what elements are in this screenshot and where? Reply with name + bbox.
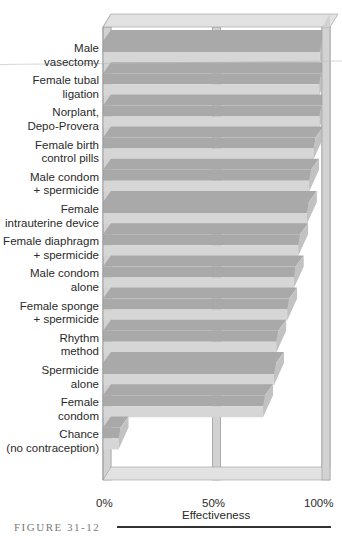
category-label-line: condom [0, 410, 99, 424]
category-label-line: control pills [0, 152, 99, 166]
bar [103, 191, 317, 224]
category-label: Male condom+ spermicide [0, 171, 99, 198]
frame-top [103, 14, 338, 27]
bar-front-face [103, 310, 287, 321]
category-label-line: + spermicide [0, 184, 99, 198]
category-label-line: ligation [0, 88, 99, 102]
category-label: Spermicidealone [0, 364, 99, 391]
frame-floor [103, 467, 330, 480]
bar [103, 352, 284, 385]
bar-front-face [103, 406, 263, 417]
category-label-line: Norplant, [0, 106, 99, 120]
bar-front-face [103, 374, 274, 385]
bar-top-face [103, 62, 329, 73]
bar [103, 288, 297, 321]
category-label-line: Male [0, 42, 99, 56]
category-label-line: alone [0, 281, 99, 295]
bar-top-face [103, 94, 329, 105]
bar-top-face-lower [103, 266, 296, 277]
bar-top-face-lower [103, 105, 321, 116]
bar [103, 159, 319, 192]
bar-top-face [103, 320, 286, 331]
category-label: Female sponge+ spermicide [0, 300, 99, 327]
category-label-line: Female [0, 396, 99, 410]
category-label-line: Female [0, 203, 99, 217]
bar [103, 384, 273, 417]
bar-top-face-lower [103, 73, 321, 84]
category-label-line: Female sponge [0, 300, 99, 314]
bar-front-face [103, 245, 298, 256]
bar [103, 62, 329, 95]
category-label-line: Chance [0, 428, 99, 442]
category-label-line: Rhythm [0, 332, 99, 346]
category-label-line: + spermicide [0, 313, 99, 327]
bar [103, 320, 286, 353]
category-label: Rhythmmethod [0, 332, 99, 359]
category-label-line: Spermicide [0, 364, 99, 378]
bar [103, 30, 330, 63]
category-label: Femalecondom [0, 396, 99, 423]
category-label-line: Male condom [0, 267, 99, 281]
category-label-line: vasectomy [0, 56, 99, 70]
bar-top-face [103, 384, 273, 395]
x-tick-50: 50% [202, 497, 225, 509]
category-label: Chance(no contraception) [0, 428, 99, 455]
bars-group [103, 30, 330, 449]
bar-front-face [103, 213, 307, 224]
bar-top-face-lower [103, 41, 322, 52]
bar-top-face-lower [103, 234, 300, 245]
figure-label: FIGURE 31-12 [14, 521, 100, 533]
figure-rule [117, 526, 331, 528]
bar-front-face [103, 181, 309, 192]
x-axis-title: Effectiveness [182, 509, 250, 521]
bar-top-face-lower [103, 138, 315, 149]
category-label-line: Female birth [0, 139, 99, 153]
category-label: Female diaphragm+ spermicide [0, 235, 99, 262]
bar-top-face [103, 30, 330, 41]
category-label-line: (no contraception) [0, 442, 99, 456]
category-label-line: alone [0, 378, 99, 392]
category-label-line: Male condom [0, 171, 99, 185]
bar-front-face [103, 149, 313, 160]
bar-top-face-lower [103, 331, 278, 342]
x-tick-100: 100% [304, 497, 333, 509]
bar-top-face-lower [103, 299, 289, 310]
category-label: Male condomalone [0, 267, 99, 294]
bar-front-face [103, 84, 319, 95]
bar [103, 94, 329, 127]
category-label: Female tuballigation [0, 74, 99, 101]
category-label-line: + spermicide [0, 249, 99, 263]
category-label: Female birthcontrol pills [0, 139, 99, 166]
category-label-line: intrauterine device [0, 217, 99, 231]
bar-front-face [103, 342, 276, 353]
category-label-line: Female tubal [0, 74, 99, 88]
category-label: Malevasectomy [0, 42, 99, 69]
category-label-line: Female diaphragm [0, 235, 99, 249]
bar-front-face [103, 116, 319, 127]
bar-top-face-lower [103, 202, 309, 213]
frame-right-wall [322, 27, 330, 480]
category-label-line: method [0, 345, 99, 359]
bar-top-face [103, 288, 297, 299]
bar-top-face [103, 352, 284, 363]
bar-top-face-lower [103, 427, 121, 438]
bar [103, 255, 304, 288]
bar [103, 223, 308, 256]
x-tick-0: 0% [96, 497, 113, 509]
bar-front-face [103, 438, 119, 449]
bar-top-face-lower [103, 170, 311, 181]
bar [103, 127, 323, 160]
bar-top-face [103, 255, 304, 266]
bar-top-face [103, 223, 308, 234]
bar-top-face [103, 159, 319, 170]
category-label: Norplant,Depo-Provera [0, 106, 99, 133]
bar-top-face [103, 127, 323, 138]
bar-top-face-lower [103, 395, 265, 406]
bar-top-face [103, 191, 317, 202]
bar-front-face [103, 277, 294, 288]
category-label-line: Depo-Provera [0, 120, 99, 134]
category-label: Femaleintrauterine device [0, 203, 99, 230]
bar-top-face-lower [103, 363, 276, 374]
